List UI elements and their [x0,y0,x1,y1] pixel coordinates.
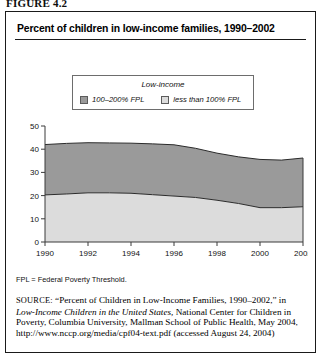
y-axis-tick-label: 20 [30,192,39,201]
title-divider [15,39,306,40]
x-axis-tick-label: 2002 [294,249,308,258]
x-axis-tick-label: 1996 [165,249,183,258]
x-axis-tick-label: 1990 [36,249,54,258]
legend-items: 100–200% FPL less than 100% FPL [80,95,247,104]
page-title: Percent of children in low-income famili… [17,23,275,34]
y-axis-tick-label: 10 [30,215,39,224]
legend-label-100-200-fpl: 100–200% FPL [92,95,144,104]
source-note: SOURCE: “Percent of Children in Low-Inco… [16,295,304,339]
x-axis-tick-label: 1992 [79,249,97,258]
chart-legend: Low-income 100–200% FPL less than 100% F… [72,75,254,110]
legend-label-less-than-100-fpl: less than 100% FPL [173,95,241,104]
x-axis-tick-label: 1994 [122,249,140,258]
figure-number: FIGURE 4.2 [6,0,67,9]
legend-item-less-than-100-fpl: less than 100% FPL [161,95,241,104]
chart-plot-area: 010203040501990199219941996199820002002 [15,120,308,268]
figure-container: Percent of children in low-income famili… [5,11,316,353]
source-publication-title: Low-Income Children in the United States… [16,307,173,317]
legend-swatch-dark [80,96,88,104]
source-text-part1: “Percent of Children in Low-Income Famil… [53,295,286,305]
area-chart: 010203040501990199219941996199820002002 [15,120,308,268]
y-axis-tick-label: 0 [35,238,40,247]
footnote-abbreviation: FPL = Federal Poverty Threshold. [16,275,127,284]
source-label: SOURCE: [16,296,53,305]
legend-swatch-light [161,96,169,104]
y-axis-tick-label: 40 [30,145,39,154]
legend-title: Low-income [73,80,253,89]
y-axis-tick-label: 50 [30,122,39,131]
x-axis-tick-label: 1998 [208,249,226,258]
legend-item-100-200-fpl: 100–200% FPL [80,95,144,104]
x-axis-tick-label: 2000 [251,249,269,258]
y-axis-tick-label: 30 [30,168,39,177]
